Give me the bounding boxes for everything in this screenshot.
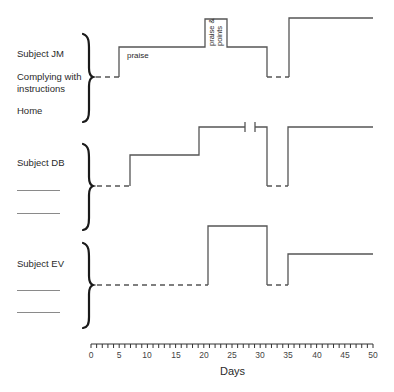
- tick-label-40: 40: [312, 350, 321, 360]
- tick-label-15: 15: [171, 350, 180, 360]
- ev-brace-icon: [83, 243, 93, 328]
- tick-label-0: 0: [89, 350, 94, 360]
- tick-label-30: 30: [255, 350, 264, 360]
- x-axis-title: Days: [220, 365, 245, 377]
- tick-label-45: 45: [340, 350, 349, 360]
- x-axis: [91, 344, 373, 348]
- chart-canvas: [0, 0, 394, 392]
- series-ev: [97, 226, 373, 285]
- db-brace-icon: [83, 144, 93, 230]
- tick-label-25: 25: [227, 350, 236, 360]
- tick-label-20: 20: [199, 350, 208, 360]
- series-db: [97, 122, 373, 186]
- series-jm: [96, 18, 373, 77]
- annotation-praise: praise: [127, 51, 149, 60]
- tick-label-50: 50: [368, 350, 377, 360]
- tick-label-35: 35: [283, 350, 292, 360]
- jm-brace-icon: [83, 34, 93, 122]
- tick-label-10: 10: [142, 350, 151, 360]
- tick-label-5: 5: [117, 350, 122, 360]
- annotation-praise-points-2: points: [216, 26, 224, 46]
